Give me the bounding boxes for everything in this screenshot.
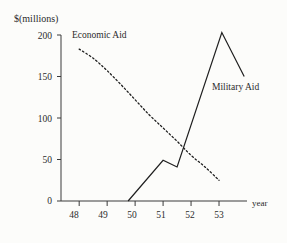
x-tick-marks [79, 201, 219, 206]
aid-line-chart: $(millions) year 200 150 100 50 0 48 49 … [0, 0, 287, 243]
plot-area [0, 0, 287, 243]
series-line-economic-aid [79, 49, 219, 180]
series-line-military-aid [128, 33, 244, 201]
y-tick-marks [57, 35, 61, 201]
